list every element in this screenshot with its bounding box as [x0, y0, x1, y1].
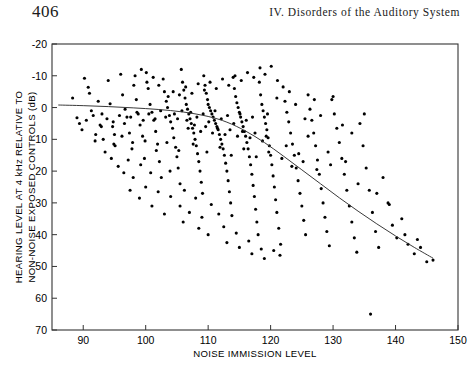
data-point	[285, 144, 288, 147]
data-point	[147, 112, 150, 115]
data-point	[297, 179, 300, 182]
plot-canvas: 90100110120130140150 -20-100102030405060…	[0, 0, 472, 366]
data-point	[164, 116, 167, 119]
data-point	[267, 150, 270, 153]
data-point	[168, 114, 171, 117]
data-point	[124, 108, 127, 111]
data-point	[90, 109, 93, 112]
data-point	[350, 220, 353, 223]
data-point	[160, 176, 163, 179]
data-point	[183, 189, 186, 192]
data-point	[238, 246, 241, 249]
data-point	[211, 131, 214, 134]
data-point	[307, 93, 310, 96]
x-tick-label: 120	[262, 334, 280, 346]
data-point	[210, 112, 213, 115]
data-point	[248, 155, 251, 158]
data-point	[329, 163, 332, 166]
data-point	[123, 122, 126, 125]
data-point	[214, 122, 217, 125]
data-point	[107, 79, 110, 82]
data-point	[125, 116, 128, 119]
data-point	[278, 254, 281, 257]
data-point	[144, 139, 147, 142]
data-point	[283, 100, 286, 103]
data-point	[105, 117, 108, 120]
data-point	[197, 160, 200, 163]
data-point	[228, 190, 231, 193]
data-point	[279, 243, 282, 246]
data-point	[182, 220, 185, 223]
data-point	[113, 133, 116, 136]
data-point	[142, 119, 145, 122]
data-point	[178, 93, 181, 96]
data-point	[184, 85, 187, 88]
data-point	[207, 103, 210, 106]
data-point	[431, 259, 434, 262]
data-point	[201, 192, 204, 195]
data-point	[240, 79, 243, 82]
data-point	[289, 131, 292, 134]
data-point	[149, 103, 152, 106]
data-point	[227, 179, 230, 182]
data-point	[200, 216, 203, 219]
data-point	[194, 197, 197, 200]
data-point	[237, 106, 240, 109]
data-point	[223, 154, 226, 157]
data-point	[253, 131, 256, 134]
data-point	[208, 106, 211, 109]
data-point	[185, 103, 188, 106]
data-point	[215, 87, 218, 90]
data-point	[140, 68, 143, 71]
data-point	[112, 143, 115, 146]
data-point	[253, 195, 256, 198]
data-point	[193, 123, 196, 126]
data-point	[118, 114, 121, 117]
data-point	[167, 95, 170, 98]
data-point	[265, 128, 268, 131]
data-point	[262, 109, 265, 112]
data-point	[131, 141, 134, 144]
data-point	[260, 247, 263, 250]
data-point	[245, 141, 248, 144]
data-point	[129, 189, 132, 192]
data-point	[228, 128, 231, 131]
data-point	[322, 201, 325, 204]
data-point	[149, 171, 152, 174]
data-point	[203, 84, 206, 87]
data-point	[180, 68, 183, 71]
scatter-plot-figure: 90100110120130140150 -20-100102030405060…	[0, 0, 472, 366]
data-point	[150, 205, 153, 208]
data-point	[255, 155, 258, 158]
data-point	[150, 111, 153, 114]
data-point	[193, 138, 196, 141]
data-point	[188, 117, 191, 120]
data-point	[245, 119, 248, 122]
data-point	[132, 84, 135, 87]
data-point	[172, 136, 175, 139]
data-point	[139, 123, 142, 126]
data-point	[266, 112, 269, 115]
data-point	[138, 197, 141, 200]
data-point	[338, 141, 341, 144]
data-point	[285, 111, 288, 114]
data-point	[375, 192, 378, 195]
data-point	[247, 147, 250, 150]
data-point	[263, 73, 266, 76]
data-point	[251, 116, 254, 119]
data-point	[192, 143, 195, 146]
data-point	[403, 233, 406, 236]
data-point	[291, 143, 294, 146]
data-point	[388, 203, 391, 206]
data-point	[197, 227, 200, 230]
data-point	[182, 89, 185, 92]
y-tick-label: 20	[35, 165, 47, 177]
data-point	[249, 163, 252, 166]
data-point	[377, 246, 380, 249]
data-point	[276, 79, 279, 82]
data-point	[254, 208, 257, 211]
data-point	[117, 165, 120, 168]
data-point	[416, 238, 419, 241]
data-point	[78, 122, 81, 125]
data-point	[344, 160, 347, 163]
